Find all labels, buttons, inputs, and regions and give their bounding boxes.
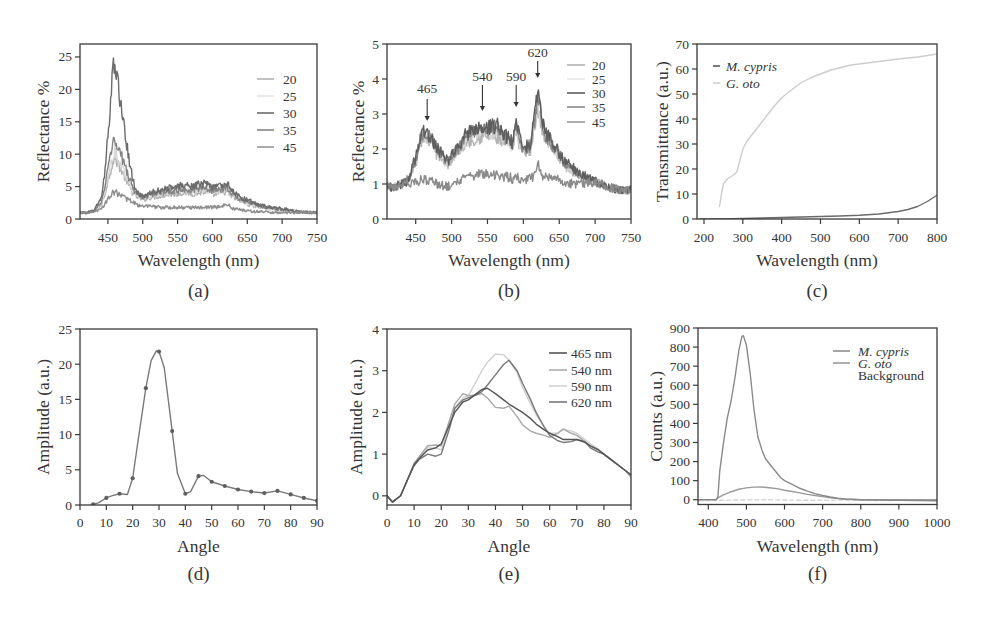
data-point-marker <box>289 492 293 496</box>
y-axis-title: Reflectance % <box>348 81 368 183</box>
legend: 2025303545 <box>257 72 297 155</box>
x-tick-label: 700 <box>272 230 293 245</box>
x-tick-label: 700 <box>813 515 834 530</box>
legend-label: 30 <box>283 106 297 121</box>
x-tick-label: 80 <box>597 515 611 530</box>
y-tick-label: 15 <box>59 114 73 129</box>
legend: 2025303545 <box>567 58 606 130</box>
y-tick-label: 0 <box>683 492 690 507</box>
legend-label: 30 <box>592 86 606 101</box>
x-axis-title: Angle <box>488 536 531 556</box>
x-tick-label: 1000 <box>924 515 951 530</box>
y-tick-label: 30 <box>676 137 690 152</box>
y-tick-label: 600 <box>670 378 691 393</box>
series-line-m-cypris <box>700 195 937 219</box>
y-tick-label: 20 <box>676 162 690 177</box>
chart-panel-a: 4505005506006507007500510152025Wavelengt… <box>33 44 327 302</box>
peak-label: 465 <box>417 81 438 96</box>
y-tick-label: 5 <box>65 179 72 194</box>
x-tick-label: 550 <box>477 230 498 245</box>
y-tick-label: 0 <box>65 212 72 227</box>
legend-label: G. oto <box>726 76 760 91</box>
data-point-marker <box>91 502 95 506</box>
legend: M. cyprisG. oto <box>713 59 777 91</box>
y-tick-label: 0 <box>65 498 72 513</box>
y-tick-label: 3 <box>372 107 379 122</box>
data-point-marker <box>262 491 266 495</box>
x-tick-label: 50 <box>205 515 219 530</box>
data-point-marker <box>131 476 135 480</box>
x-tick-label: 450 <box>98 230 119 245</box>
peak-annotations: 465540590620 <box>417 45 548 121</box>
y-tick-label: 4 <box>372 72 379 87</box>
panel-label: (a) <box>188 280 209 302</box>
legend-label: 35 <box>592 100 606 115</box>
y-tick-label: 3 <box>372 363 379 378</box>
legend: 465 nm540 nm590 nm620 nm <box>549 346 612 410</box>
plot-area <box>699 336 937 501</box>
x-tick-label: 500 <box>736 515 757 530</box>
x-tick-label: 80 <box>284 515 298 530</box>
y-tick-label: 25 <box>59 322 73 337</box>
x-tick-label: 60 <box>231 515 245 530</box>
x-tick-label: 0 <box>77 515 84 530</box>
x-tick-label: 30 <box>152 515 166 530</box>
legend-label: 25 <box>283 89 297 104</box>
legend-label: Background <box>858 368 924 383</box>
arrow-down-icon <box>535 73 540 78</box>
arrow-down-icon <box>514 102 519 107</box>
y-tick-label: 10 <box>676 187 690 202</box>
panel-label: (f) <box>808 563 827 585</box>
x-tick-label: 800 <box>851 515 872 530</box>
x-tick-label: 750 <box>621 230 642 245</box>
x-tick-label: 600 <box>513 230 534 245</box>
x-tick-label: 70 <box>570 515 584 530</box>
peak-label: 620 <box>528 45 549 60</box>
x-tick-label: 500 <box>133 230 154 245</box>
arrow-down-icon <box>480 106 485 111</box>
y-tick-label: 800 <box>670 340 691 355</box>
y-tick-label: 300 <box>670 435 691 450</box>
legend-label: 45 <box>592 115 606 130</box>
series-line-45 <box>387 161 631 194</box>
y-tick-label: 4 <box>372 322 379 337</box>
y-tick-label: 5 <box>372 37 379 52</box>
legend-label: 540 nm <box>571 363 612 378</box>
peak-label: 540 <box>472 69 493 84</box>
x-tick-label: 900 <box>889 515 910 530</box>
y-axis-title: Reflectance % <box>33 81 53 183</box>
data-point-marker <box>104 496 108 500</box>
y-tick-label: 1 <box>372 447 379 462</box>
y-tick-label: 20 <box>59 82 73 97</box>
x-tick-label: 600 <box>774 515 795 530</box>
x-tick-label: 40 <box>489 515 503 530</box>
peak-label: 590 <box>506 69 527 84</box>
data-point-marker <box>157 349 161 353</box>
x-axis-title: Wavelength (nm) <box>138 250 260 270</box>
arrow-down-icon <box>425 116 430 121</box>
x-tick-label: 700 <box>585 230 606 245</box>
x-tick-label: 60 <box>543 515 557 530</box>
legend-label: 45 <box>283 140 297 155</box>
y-tick-label: 40 <box>676 112 690 127</box>
x-tick-label: 90 <box>310 515 324 530</box>
legend-label: 590 nm <box>571 379 612 394</box>
panel-label: (d) <box>187 563 209 585</box>
x-tick-label: 500 <box>810 230 831 245</box>
y-tick-label: 0 <box>372 212 379 227</box>
y-tick-label: 50 <box>676 87 690 102</box>
y-tick-label: 500 <box>670 397 691 412</box>
data-point-marker <box>170 429 174 433</box>
y-tick-label: 20 <box>59 357 73 372</box>
x-tick-label: 200 <box>694 230 715 245</box>
legend-label: M. cypris <box>725 59 777 74</box>
x-tick-label: 50 <box>516 515 530 530</box>
series-line-m-cypris <box>699 336 937 501</box>
panel-label: (e) <box>498 563 519 585</box>
x-tick-label: 30 <box>462 515 476 530</box>
legend: M. cyprisG. otoBackground <box>833 344 924 383</box>
data-point-marker <box>236 487 240 491</box>
chart-panel-d: 01020304050607080900510152025AngleAmplit… <box>33 322 324 586</box>
y-tick-label: 400 <box>670 416 691 431</box>
x-tick-label: 700 <box>888 230 909 245</box>
